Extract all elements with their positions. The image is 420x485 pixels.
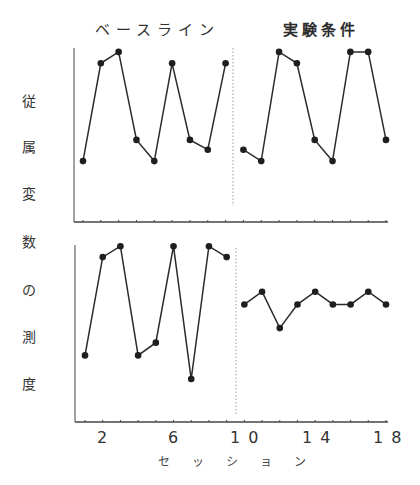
data-point bbox=[347, 301, 354, 308]
xtick-label-6: 6 bbox=[168, 428, 186, 447]
xtick-label-18: 18 bbox=[373, 428, 409, 447]
data-line bbox=[244, 292, 386, 328]
data-point bbox=[187, 137, 194, 144]
data-point bbox=[311, 137, 318, 144]
data-point bbox=[169, 60, 176, 67]
plot-area bbox=[0, 0, 420, 485]
data-point bbox=[365, 49, 372, 56]
single-case-design-chart: ベースライン 実験条件 従 属 変 数 の 測 度 2 6 10 14 18 セ… bbox=[0, 0, 420, 485]
xtick-label-2: 2 bbox=[97, 428, 115, 447]
data-point bbox=[312, 288, 319, 295]
data-point bbox=[294, 301, 301, 308]
data-point bbox=[241, 301, 248, 308]
data-point bbox=[383, 301, 390, 308]
data-point bbox=[170, 243, 177, 250]
data-point bbox=[82, 352, 89, 359]
x-axis-label: セッション bbox=[158, 452, 328, 469]
data-point bbox=[117, 243, 124, 250]
data-point bbox=[80, 158, 87, 165]
data-point bbox=[294, 60, 301, 67]
data-point bbox=[347, 49, 354, 56]
data-point bbox=[153, 339, 160, 346]
data-point bbox=[276, 49, 283, 56]
data-line bbox=[85, 246, 227, 379]
data-point bbox=[151, 158, 158, 165]
data-point bbox=[240, 146, 247, 153]
data-point bbox=[222, 60, 229, 67]
data-point bbox=[188, 376, 195, 383]
data-point bbox=[259, 288, 266, 295]
data-line bbox=[243, 52, 386, 161]
data-line bbox=[83, 52, 226, 161]
data-point bbox=[383, 137, 390, 144]
data-point bbox=[98, 60, 105, 67]
data-point bbox=[330, 301, 337, 308]
data-point bbox=[115, 49, 122, 56]
xtick-label-14: 14 bbox=[302, 428, 338, 447]
data-point bbox=[133, 137, 140, 144]
data-point bbox=[258, 158, 265, 165]
data-point bbox=[365, 288, 372, 295]
data-point bbox=[276, 325, 283, 332]
data-point bbox=[135, 352, 142, 359]
data-point bbox=[99, 254, 106, 261]
data-point bbox=[329, 158, 336, 165]
data-point bbox=[206, 243, 213, 250]
data-point bbox=[223, 254, 230, 261]
xtick-label-10: 10 bbox=[230, 428, 266, 447]
data-point bbox=[204, 146, 211, 153]
